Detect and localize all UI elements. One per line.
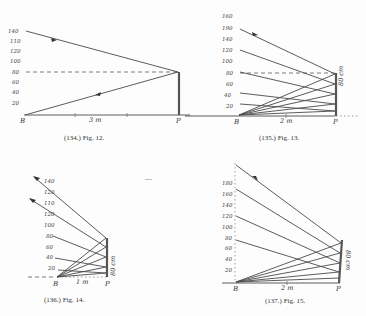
ray-fan	[30, 177, 106, 277]
ray-fan	[239, 29, 335, 115]
scale-label: 20	[11, 100, 19, 106]
scale-label: 110	[44, 200, 55, 206]
scale-label: 110	[10, 38, 21, 44]
incident-ray	[25, 72, 178, 115]
distance-label: 1 m	[76, 278, 88, 286]
scale-label: 80	[12, 69, 19, 75]
optics-figures-page: 140 110 120 100 80 60 40 20 B P 3 m (134…	[0, 0, 366, 316]
arrow-icon	[33, 176, 40, 181]
scale-label: 100	[222, 224, 233, 230]
distance-label: 2 m	[280, 284, 293, 292]
point-p-label: P	[335, 285, 341, 293]
scale-label: 40	[224, 256, 232, 262]
mirror-height-label: 80 cm	[109, 256, 117, 276]
scale-label: 20	[225, 103, 233, 109]
figure-13: 160 190 140 120 100 80 60 40 20 B P 2 m …	[185, 13, 358, 142]
scale-label: 120	[222, 213, 233, 219]
scale-label: 120	[222, 47, 233, 53]
distance-label: 3 m	[89, 116, 101, 124]
mirror	[339, 240, 342, 283]
scale-label: 120	[44, 211, 55, 217]
scale-label: 140	[222, 202, 233, 208]
point-b-label: B	[19, 117, 25, 125]
point-b-label: B	[232, 285, 238, 293]
scale-label: 80	[46, 233, 53, 239]
point-b-label: B	[233, 118, 239, 126]
scale-label: 80	[225, 235, 232, 241]
ray-fan	[236, 165, 341, 282]
scale-label: 60	[226, 81, 233, 87]
figure-12: 140 110 120 100 80 60 40 20 B P 3 m (134…	[8, 28, 190, 142]
scale-label: 120	[44, 189, 55, 195]
scale-label: 160	[222, 13, 233, 19]
scale-label: 100	[222, 58, 233, 64]
figure-14: 140 120 110 120 100 80 60 40 20 B P 1 m …	[28, 176, 117, 304]
figure-15: 180 160 140 120 100 80 60 40 20 B P 2 m …	[222, 163, 352, 305]
distance-label: 2 m	[279, 117, 292, 125]
scale-label: 120	[10, 48, 21, 54]
scale-label: 190	[222, 25, 233, 31]
scale-label: 100	[44, 222, 55, 228]
point-p-label: P	[104, 280, 110, 288]
scale-label: 40	[11, 89, 19, 95]
scale-label: 20	[224, 267, 232, 273]
scale-label: 140	[8, 28, 19, 34]
scale-label: 80	[226, 70, 233, 76]
figure-caption: (136.) Fig. 14.	[44, 296, 85, 304]
scale-label: 180	[222, 180, 233, 186]
mirror-height-label: 80 cm	[337, 66, 345, 86]
point-p-label: P	[175, 117, 181, 125]
scale-label: 60	[225, 245, 232, 251]
scale-label: 140	[44, 178, 55, 184]
scale-label: 100	[10, 58, 21, 64]
scale-label: 40	[223, 92, 231, 98]
scale-label: 60	[46, 244, 53, 250]
scale-label: 140	[222, 36, 233, 42]
mirror-height-label: 80 cm	[344, 250, 352, 270]
stray-mark: —	[144, 175, 153, 183]
scale-label: 40	[45, 254, 53, 260]
scale-label: 60	[12, 79, 19, 85]
figure-caption: (137.) Fig. 15.	[265, 297, 306, 305]
scale-label: 20	[47, 265, 55, 271]
point-b-label: B	[52, 280, 58, 288]
arrow-icon	[252, 176, 258, 181]
reflected-ray	[26, 31, 178, 72]
figure-caption: (135.) Fig. 13.	[259, 134, 300, 142]
point-p-label: P	[332, 118, 338, 126]
arrow-icon	[252, 32, 258, 36]
scale-label: 160	[222, 191, 233, 197]
figure-caption: (134.) Fig. 12.	[64, 134, 105, 142]
